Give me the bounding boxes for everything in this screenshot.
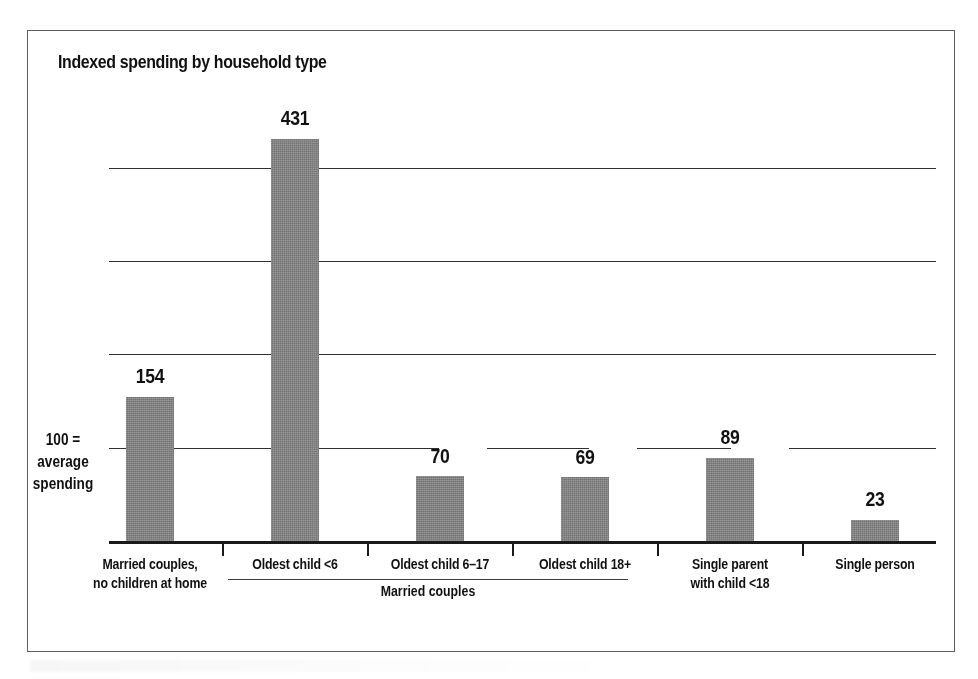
- axis-tick: [512, 543, 514, 556]
- bar-value-label: 431: [268, 106, 322, 130]
- category-label-oldest-child-under-6: Oldest child <6: [236, 555, 355, 574]
- category-label-married-no-children: Married couples, no children at home: [82, 555, 218, 593]
- bar-oldest-child-6-17[interactable]: [416, 476, 464, 541]
- bar-single-parent[interactable]: [706, 458, 754, 541]
- bar-value-label: 70: [413, 444, 467, 468]
- scan-artifact: [30, 660, 630, 672]
- axis-tick: [367, 543, 369, 556]
- bar-oldest-child-18-plus[interactable]: [561, 477, 609, 541]
- category-label-single-person: Single person: [816, 555, 935, 574]
- category-label-line: Single person: [835, 556, 914, 572]
- category-label-line: Married couples,: [102, 556, 197, 572]
- axis-tick: [222, 543, 224, 556]
- category-label-line: no children at home: [93, 575, 207, 591]
- chart-frame: Indexed spending by household type 154 4…: [27, 30, 955, 652]
- y-axis-note-line-2: average: [28, 451, 98, 473]
- gridline-100: [109, 448, 936, 449]
- y-axis-note-line-1: 100 =: [28, 429, 98, 451]
- group-bracket-line: [228, 579, 628, 580]
- category-label-line: Oldest child <6: [252, 556, 337, 572]
- bar-value-label: 23: [848, 487, 902, 511]
- bar-value-label: 154: [123, 364, 177, 388]
- bar-single-person[interactable]: [851, 520, 899, 541]
- category-label-line: Oldest child 18+: [539, 556, 631, 572]
- bar-married-no-children[interactable]: [126, 397, 174, 541]
- gridline-200: [109, 354, 936, 355]
- bar-value-label: 69: [558, 445, 612, 469]
- category-label-single-parent: Single parent with child <18: [671, 555, 790, 593]
- category-label-line: Oldest child 6–17: [391, 556, 489, 572]
- gridline-mask: [196, 356, 254, 376]
- plot-area: 154 431 70 69 89 23 100 = average spendi…: [28, 31, 956, 653]
- bar-oldest-child-under-6[interactable]: [271, 139, 319, 541]
- gridline-400: [109, 168, 936, 169]
- x-axis-baseline: [109, 541, 936, 544]
- gridline-300: [109, 261, 936, 262]
- bar-value-label: 89: [703, 425, 757, 449]
- group-bracket-label: Married couples: [258, 583, 598, 599]
- category-label-oldest-child-18-plus: Oldest child 18+: [526, 555, 645, 574]
- category-label-oldest-child-6-17: Oldest child 6–17: [381, 555, 500, 574]
- axis-tick: [657, 543, 659, 556]
- axis-tick: [802, 543, 804, 556]
- category-label-line: with child <18: [691, 575, 770, 591]
- category-label-line: Single parent: [692, 556, 768, 572]
- y-axis-baseline-note: 100 = average spending: [28, 429, 98, 495]
- y-axis-note-line-3: spending: [28, 473, 98, 495]
